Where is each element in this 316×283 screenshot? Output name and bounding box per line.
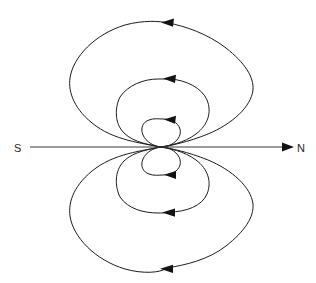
outer-bottom-arrowhead bbox=[160, 265, 173, 273]
inner-loop-lower bbox=[142, 147, 181, 175]
middle-loop-lower bbox=[116, 147, 209, 213]
axis-north-arrowhead bbox=[282, 143, 294, 152]
outer-top-arrowhead bbox=[161, 19, 174, 27]
lower-field-loops bbox=[70, 147, 253, 272]
outer-loop-upper bbox=[70, 21, 253, 147]
dipole-axis-group bbox=[30, 143, 294, 152]
middle-bottom-arrowhead bbox=[162, 209, 175, 217]
middle-loop-upper bbox=[116, 79, 209, 147]
field-line-canvas: S N bbox=[0, 0, 316, 283]
magnetic-dipole-diagram: S N bbox=[0, 0, 316, 283]
inner-top-arrowhead bbox=[164, 116, 176, 124]
inner-bottom-arrowhead bbox=[164, 171, 176, 179]
upper-field-loops bbox=[70, 21, 253, 147]
middle-top-arrowhead bbox=[163, 75, 176, 83]
north-pole-label: N bbox=[297, 142, 305, 154]
south-pole-label: S bbox=[14, 142, 21, 154]
outer-loop-lower bbox=[70, 147, 253, 272]
